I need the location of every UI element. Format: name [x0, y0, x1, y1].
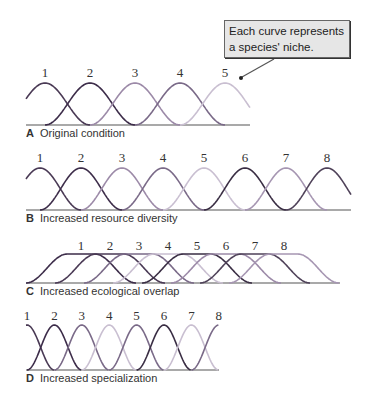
panel-c-letter: C	[26, 285, 34, 297]
niche-curve-b-4	[122, 168, 204, 210]
niche-diagram: 12345123456781234567812345678	[0, 0, 371, 398]
curve-label-c-6: 6	[223, 238, 230, 253]
curve-label-d-6: 6	[161, 308, 168, 323]
curve-label-d-4: 4	[106, 308, 113, 323]
niche-curve-b-5	[163, 168, 245, 210]
curve-label-c-1: 1	[78, 238, 85, 253]
panel-c-title: Increased ecological overlap	[40, 285, 179, 297]
niche-curve-a-4	[135, 83, 225, 125]
curve-label-b-1: 1	[37, 150, 44, 165]
curve-label-c-8: 8	[281, 238, 288, 253]
curve-label-d-1: 1	[24, 308, 31, 323]
niche-curve-a-2	[45, 83, 135, 125]
curve-label-a-2: 2	[87, 65, 94, 80]
curve-label-a-4: 4	[177, 65, 184, 80]
curve-label-b-8: 8	[324, 150, 331, 165]
niche-curve-d-7	[164, 325, 218, 370]
curve-label-b-5: 5	[201, 150, 208, 165]
panel-b-caption: BIncreased resource diversity	[26, 212, 178, 224]
curve-label-d-7: 7	[188, 308, 195, 323]
niche-curve-c-6	[171, 254, 281, 283]
panel-a-letter: A	[26, 127, 34, 139]
niche-curve-c-4	[113, 254, 223, 283]
curve-label-d-5: 5	[133, 308, 140, 323]
callout-pointer-dot	[239, 76, 243, 80]
niche-curve-c-3	[84, 254, 194, 283]
niche-curve-d-2	[27, 325, 81, 370]
niche-curve-c-1	[26, 254, 136, 283]
niche-curve-d-5	[109, 325, 163, 370]
curve-label-d-3: 3	[79, 308, 86, 323]
curve-label-b-4: 4	[160, 150, 167, 165]
niche-curve-d-4	[82, 325, 136, 370]
niche-curve-c-8	[229, 254, 339, 283]
panel-d-letter: D	[26, 372, 34, 384]
panel-a-caption: AOriginal condition	[26, 127, 125, 139]
niche-curve-c-5	[142, 254, 252, 283]
curve-label-a-3: 3	[132, 65, 139, 80]
curve-label-c-3: 3	[136, 238, 143, 253]
curve-label-b-2: 2	[78, 150, 85, 165]
curve-label-c-2: 2	[107, 238, 114, 253]
niche-curve-d-3	[54, 325, 108, 370]
curve-label-a-5: 5	[222, 65, 229, 80]
callout-box: Each curve represents a species' niche.	[224, 20, 350, 58]
niche-curve-b-6	[204, 168, 286, 210]
callout-pointer	[242, 59, 274, 77]
niche-curve-c-2	[55, 254, 165, 283]
niche-curve-b-2	[40, 168, 122, 210]
panel-d-title: Increased specialization	[40, 372, 157, 384]
curve-label-d-2: 2	[51, 308, 58, 323]
niche-curve-a-1	[26, 83, 90, 125]
niche-curve-d-6	[137, 325, 191, 370]
panel-b-letter: B	[26, 212, 34, 224]
niche-curve-a-3	[90, 83, 180, 125]
niche-curve-b-3	[81, 168, 163, 210]
curve-label-b-3: 3	[119, 150, 126, 165]
curve-label-d-8: 8	[216, 308, 223, 323]
curve-label-b-7: 7	[283, 150, 290, 165]
niche-curve-b-1	[26, 168, 81, 210]
curve-label-c-4: 4	[165, 238, 172, 253]
niche-curve-c-7	[200, 254, 310, 283]
panel-c-caption: CIncreased ecological overlap	[26, 285, 179, 297]
curve-label-b-6: 6	[242, 150, 249, 165]
panel-b-title: Increased resource diversity	[40, 212, 178, 224]
niche-curve-d-8	[191, 325, 218, 370]
panel-a-title: Original condition	[40, 127, 125, 139]
curve-label-a-1: 1	[42, 65, 49, 80]
panel-d-caption: DIncreased specialization	[26, 372, 157, 384]
callout-text: Each curve represents a species' niche.	[229, 25, 344, 53]
niche-curve-b-7	[245, 168, 327, 210]
curve-label-c-5: 5	[194, 238, 201, 253]
curve-label-c-7: 7	[252, 238, 259, 253]
